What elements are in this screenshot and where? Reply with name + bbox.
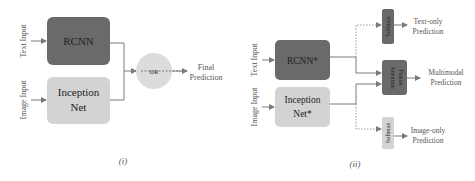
caption-i: (i) [119, 156, 128, 166]
text-only-prediction-line1: Text-only [413, 17, 442, 26]
inception-net-star-box [275, 87, 330, 127]
text-input-label: Text Input [19, 24, 28, 58]
image-only-prediction-line1: Image-only [411, 126, 446, 135]
text-only-prediction-line2: Prediction [413, 27, 444, 36]
multimodal-prediction-line2: Prediction [431, 78, 462, 87]
text-softmax-label: Softmax [385, 16, 391, 36]
image-softmax-label: Softmax [385, 123, 391, 143]
final-prediction-line1: Final [198, 63, 215, 72]
inception-to-fusion-connector [330, 84, 381, 104]
image-input-label: Image Input [19, 80, 28, 120]
rcnn-to-or-connector [110, 43, 124, 71]
image-input-label: Image Input [250, 87, 259, 127]
rcnn-to-text-softmax-dotted [356, 25, 381, 57]
or-label: OR [150, 69, 158, 75]
rcnn-to-fusion-connector [330, 57, 381, 73]
attention-fusion-line1: Attention [390, 66, 396, 89]
architecture-figure: Text Input Image Input RCNN Inception Ne… [0, 0, 475, 181]
inception-net-star-line2: Net* [293, 109, 312, 119]
rcnn-label: RCNN [63, 35, 94, 47]
caption-ii: (ii) [350, 159, 361, 169]
inception-net-star-line1: Inception [285, 95, 321, 105]
inception-to-or-connector [110, 71, 124, 100]
final-prediction-line2: Prediction [190, 73, 223, 82]
image-only-prediction-line2: Prediction [413, 136, 444, 145]
diagram-i: Text Input Image Input RCNN Inception Ne… [19, 17, 222, 166]
rcnn-star-label: RCNN* [287, 56, 318, 66]
inception-net-label-line2: Net [71, 101, 87, 113]
inception-to-image-softmax-dotted [356, 104, 381, 129]
multimodal-prediction-line1: Multimodal [428, 68, 463, 77]
attention-fusion-line2: Fusion [398, 69, 404, 85]
diagram-ii: Text Input Image Input RCNN* Inception N… [250, 9, 464, 169]
text-input-label: Text Input [250, 43, 259, 77]
inception-net-label-line1: Inception [58, 86, 100, 98]
